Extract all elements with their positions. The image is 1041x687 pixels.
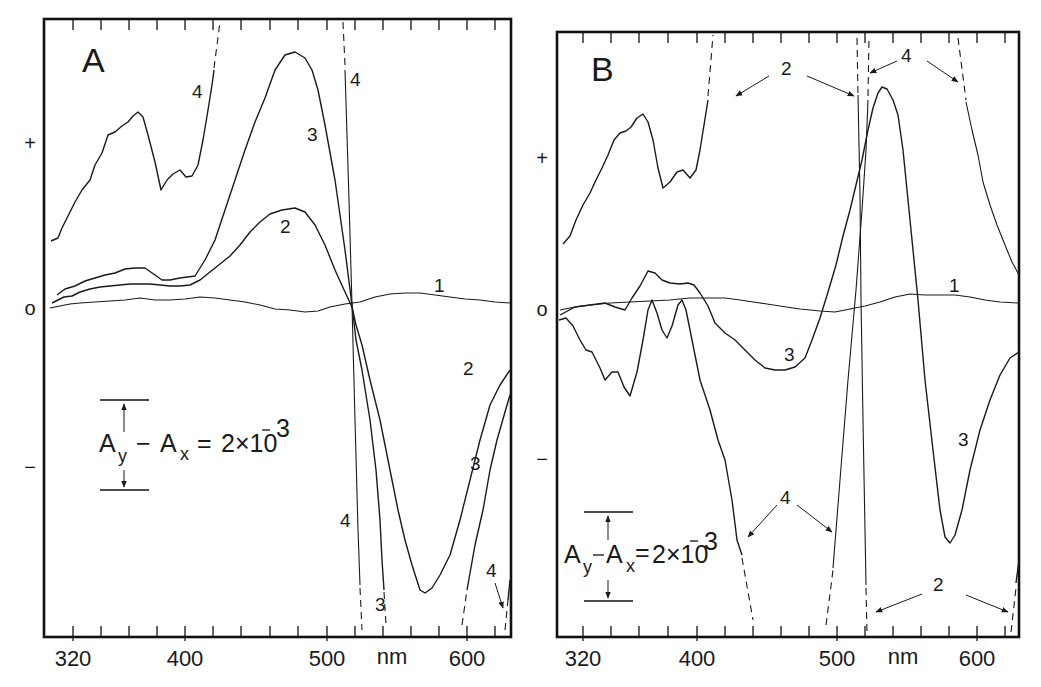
panel-b-curve-2b-dash-top — [857, 38, 858, 95]
panel-b-bottom-ticks — [583, 626, 1005, 641]
panel-a-label-3: 3 — [307, 124, 318, 145]
scale-a-value: 2×10 — [221, 429, 277, 457]
panel-a-label-4c: 4 — [340, 510, 351, 531]
scale-a-sub-y: y — [118, 446, 127, 466]
panel-b-curve-2-dash — [708, 35, 713, 96]
panel-b-xtick-320: 320 — [565, 646, 602, 671]
scale-b-A1: A — [564, 540, 581, 568]
scale-a-A2: A — [160, 429, 177, 457]
panel-b-ytick-minus: − — [536, 448, 548, 470]
panel-a-bottom-ticks — [73, 626, 495, 641]
panel-b-curve-2c-dash — [1011, 588, 1016, 632]
panel-b-xtick-500: 500 — [819, 646, 856, 671]
panel-b-label-4: 4 — [901, 45, 912, 66]
scale-b-equals: = — [635, 538, 650, 566]
panel-a-label-4b: 4 — [350, 69, 361, 90]
panel-a-curve-3b-dash — [462, 590, 467, 625]
panel-a-curve-4c-dash — [505, 600, 508, 630]
scale-a-equals: = — [197, 429, 212, 457]
panel-a-label-2: 2 — [280, 216, 291, 237]
panel-b-label-arrows — [736, 61, 1008, 612]
panel-b-xtick-600: 600 — [959, 646, 996, 671]
panel-b-curve-4b-dash-bottom — [826, 570, 833, 625]
scale-a-sub-x: x — [180, 444, 189, 464]
panel-a-scale-bar: A y − A x = 2×10 3 — [99, 400, 290, 490]
panel-b-label-3: 3 — [784, 344, 795, 365]
panel-a-label-1: 1 — [434, 275, 445, 296]
panel-b-frame — [557, 32, 1019, 637]
panel-b-xtick-400: 400 — [679, 646, 716, 671]
panel-a-xtick-600: 600 — [449, 646, 486, 671]
panel-b-curves — [559, 35, 1019, 632]
panel-b-x-unit: nm — [888, 644, 919, 669]
panel-a-ytick-minus: − — [24, 456, 36, 478]
scale-a-A1: A — [99, 429, 116, 457]
panel-b-curve-3 — [560, 87, 1019, 543]
panel-a-label-4: 4 — [192, 81, 203, 102]
panel-a-curve-4b-dash-bottom — [360, 588, 362, 630]
scale-a-exp: 3 — [276, 414, 290, 442]
panel-b-top-ticks — [583, 32, 1005, 43]
panel-a-curves — [50, 22, 511, 630]
panel-a-frame — [44, 19, 511, 637]
panel-a-label-3b: 3 — [470, 453, 481, 474]
panel-a-label: A — [82, 41, 105, 79]
scale-b-sub-y: y — [583, 557, 592, 577]
panel-b-ytick-zero: o — [536, 298, 547, 320]
panel-a-label-4d: 4 — [486, 560, 497, 581]
panel-b-curve-4c-dash — [958, 38, 966, 100]
panel-b-curve-2b-dash-bottom — [866, 588, 867, 632]
panel-a-curve-4b — [345, 70, 360, 585]
panel-a-label-2b: 2 — [463, 358, 474, 379]
panel-b-label-1: 1 — [949, 275, 960, 296]
panel-a-curve-4 — [51, 70, 214, 241]
panel-a-ytick-plus: + — [24, 132, 36, 154]
panel-b-scale-bar: A y A x = 2×10 3 — [564, 512, 718, 601]
panel-b-curve-2 — [563, 100, 708, 244]
panel-a-top-ticks — [73, 19, 495, 30]
panel-b-curve-4c — [966, 102, 1019, 275]
panel-b-label: B — [591, 50, 614, 88]
panel-a-label-3c: 3 — [375, 594, 386, 615]
panel-b-label-2: 2 — [781, 58, 792, 79]
panel-a: 320 400 500 nm 600 + o − A — [24, 19, 511, 671]
panel-b-curve-4 — [559, 300, 742, 555]
panel-b-label-3b: 3 — [958, 429, 969, 450]
panel-a-xtick-400: 400 — [167, 646, 204, 671]
panel-a-arrow-4d — [495, 583, 503, 608]
panel-a-ytick-zero: o — [24, 297, 35, 319]
panel-b-ytick-plus: + — [536, 147, 548, 169]
panel-a-curve-4-dash — [214, 22, 220, 68]
panel-a-xtick-320: 320 — [55, 646, 92, 671]
panel-a-xtick-500: 500 — [309, 646, 346, 671]
panel-b-curve-4b — [833, 100, 868, 568]
panel-b-label-2b: 2 — [933, 574, 944, 595]
scale-b-value: 2×10 — [652, 540, 708, 568]
panel-b-label-4b: 4 — [780, 487, 791, 508]
panel-b-curve-4-dash — [742, 558, 753, 620]
panel-b-curve-4b-dash-top — [868, 38, 869, 96]
panel-a-curve-3 — [57, 52, 384, 590]
panel-a-curve-4b-dash-top — [343, 22, 345, 65]
dichroism-figure: 320 400 500 nm 600 + o − A — [0, 0, 1041, 687]
panel-a-x-unit: nm — [377, 644, 408, 669]
panel-b: 320 400 500 nm 600 + o − B — [536, 32, 1019, 671]
scale-a-minus: − — [136, 429, 151, 457]
scale-b-exp: 3 — [704, 527, 718, 555]
scale-b-sub-x: x — [626, 556, 635, 576]
scale-b-A2: A — [606, 540, 623, 568]
